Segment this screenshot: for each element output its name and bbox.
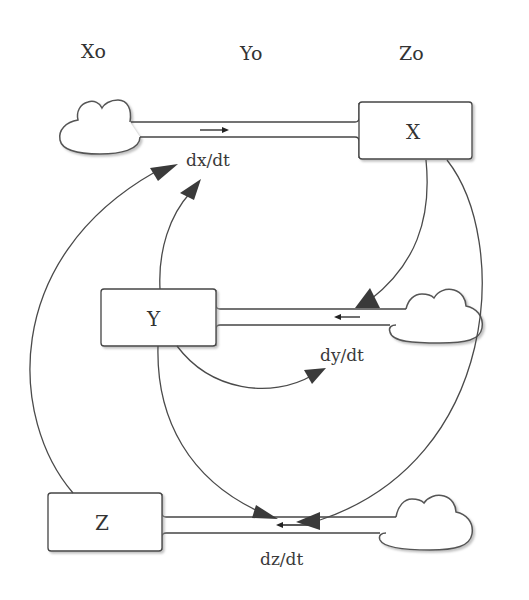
arrowhead-y-dx-icon — [180, 179, 201, 200]
rate-label-dx: dx/dt — [186, 152, 230, 169]
cloud-source-y — [389, 289, 482, 343]
stock-flow-diagram: Xo Yo Zo X Y Z dx/dt dy/dt dz/dt — [0, 0, 529, 600]
rate-label-dz: dz/dt — [260, 551, 303, 568]
arrowhead-z-dx-icon — [150, 164, 178, 181]
arrowhead-y-dy-icon — [304, 368, 326, 384]
diagram-canvas — [0, 0, 529, 600]
arrowhead-x-dy-icon — [355, 288, 380, 308]
rate-label-dy: dy/dt — [320, 347, 364, 364]
link-y-to-dx — [160, 193, 190, 289]
label-xo: Xo — [81, 42, 106, 61]
label-zo: Zo — [399, 44, 424, 63]
flow-pipe-y — [216, 290, 406, 346]
stock-label-z: Z — [95, 513, 109, 533]
arrowhead-y-dz-icon — [252, 505, 278, 519]
cloud-source-z — [379, 495, 472, 550]
flow-pipe-x — [131, 103, 359, 158]
cloud-source-x — [60, 100, 140, 154]
link-y-to-dz — [158, 346, 260, 512]
flow-direction-arrow-x-icon — [200, 127, 229, 133]
arrowhead-x-dz-icon — [296, 512, 320, 530]
stock-label-y: Y — [147, 309, 160, 329]
link-y-to-dy — [177, 346, 313, 388]
stock-label-x: X — [406, 122, 420, 142]
label-yo: Yo — [240, 44, 262, 63]
link-x-to-dy — [370, 160, 427, 300]
flow-direction-arrow-y-icon — [334, 314, 360, 320]
